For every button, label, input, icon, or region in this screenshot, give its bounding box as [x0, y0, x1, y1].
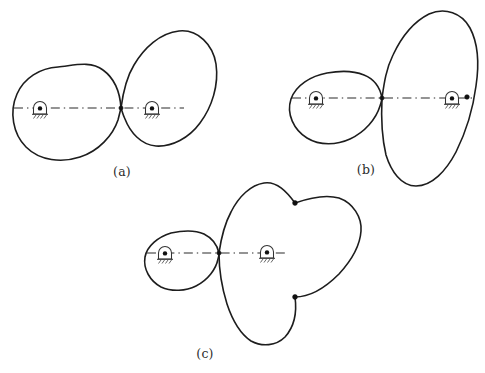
- panel-a: (a): [13, 31, 217, 179]
- panel-c-left-pivot: [157, 247, 173, 264]
- panel-c-contact-point: [217, 251, 221, 255]
- panel-c-right-pivot: [259, 246, 275, 263]
- panel-a-left-pivot: [32, 102, 48, 119]
- panel-c-driven-pitch-curve: [219, 183, 361, 345]
- panel-c-node-marker-lower: [293, 295, 298, 300]
- panel-c: (c): [145, 183, 361, 361]
- panel-a-contact-point: [119, 106, 123, 110]
- figure-root: (a): [0, 0, 485, 373]
- panel-b-left-pivot: [308, 92, 324, 109]
- panel-b-driver-pitch-curve: [289, 71, 382, 143]
- panel-c-driver-pitch-curve: [145, 231, 219, 290]
- panel-c-caption: (c): [196, 346, 213, 361]
- panel-b-node-marker-right: [465, 95, 470, 100]
- panel-a-caption: (a): [113, 164, 131, 179]
- panel-b: (b): [289, 11, 477, 186]
- panel-a-driver-pitch-curve: [13, 64, 121, 160]
- figure-canvas: (a): [0, 0, 485, 373]
- panel-c-node-marker-upper: [293, 201, 298, 206]
- panel-b-caption: (b): [357, 162, 375, 177]
- panel-b-right-pivot: [444, 92, 460, 109]
- panel-a-right-pivot: [144, 102, 160, 119]
- panel-b-contact-point: [380, 96, 384, 100]
- panel-a-driven-pitch-curve: [121, 31, 217, 146]
